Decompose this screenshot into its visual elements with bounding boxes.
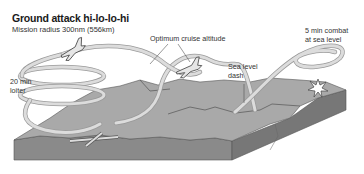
loiter-label: 20 min loiter (10, 77, 32, 95)
cruise-altitude-label: Optimum cruise altitude (150, 34, 226, 43)
combat-label-line2: at sea level (305, 35, 348, 44)
diagram-subtitle: Mission radius 300nm (556km) (12, 25, 115, 34)
cruise-leader-line (150, 44, 190, 64)
combat-label: 5 min combat at sea level (305, 26, 348, 44)
diagram-title: Ground attack hi-lo-lo-hi (12, 12, 129, 24)
sea-level-dash-label: Sea level dash (228, 62, 258, 80)
sea-level-dash-line1: Sea level (228, 62, 258, 71)
combat-label-line1: 5 min combat (305, 26, 348, 35)
loiter-label-line1: 20 min (10, 77, 32, 86)
sea-level-dash-line2: dash (228, 71, 258, 80)
loiter-label-line2: loiter (10, 86, 32, 95)
